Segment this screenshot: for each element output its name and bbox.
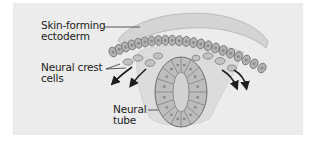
label-neural-crest-cells: Neural crest cells: [41, 62, 102, 84]
cell-nucleus: [130, 43, 133, 46]
cell-nucleus: [183, 118, 186, 121]
cell-nucleus: [253, 62, 256, 65]
cell-nucleus: [192, 41, 195, 44]
cell-nucleus: [185, 40, 188, 43]
cell-nucleus: [124, 45, 127, 48]
label-skin-forming-ectoderm: Skin-forming ectoderm: [41, 20, 105, 42]
cell-nucleus: [164, 39, 167, 42]
label-line: cells: [41, 73, 102, 84]
cell-nucleus: [229, 52, 232, 55]
cell-nucleus: [178, 39, 181, 42]
cell-nucleus: [196, 85, 199, 88]
cell-nucleus: [245, 58, 248, 61]
cell-nucleus: [207, 44, 210, 47]
cell-nucleus: [163, 96, 166, 99]
cell-nucleus: [222, 49, 225, 52]
cell-nucleus: [157, 39, 160, 42]
cell-nucleus: [194, 106, 197, 109]
cell-nucleus: [189, 68, 192, 71]
cell-nucleus: [165, 75, 168, 78]
cell-nucleus: [237, 55, 240, 58]
cell-nucleus: [163, 85, 166, 88]
label-line: ectoderm: [41, 31, 105, 42]
neural-tube: [155, 57, 207, 127]
cell-nucleus: [144, 41, 147, 44]
cell-nucleus: [261, 67, 264, 70]
label-line: tube: [113, 115, 146, 126]
cell-nucleus: [150, 40, 153, 43]
cell-nucleus: [189, 113, 192, 116]
cell-nucleus: [214, 46, 217, 49]
label-neural-tube: Neural tube: [113, 104, 146, 126]
cell-nucleus: [165, 106, 168, 109]
cell-nucleus: [112, 51, 115, 54]
cell-nucleus: [118, 48, 121, 51]
cell-nucleus: [176, 118, 179, 121]
cell-nucleus: [137, 42, 140, 45]
cell-nucleus: [176, 64, 179, 67]
cell-nucleus: [183, 64, 186, 67]
cell-nucleus: [170, 113, 173, 116]
cell-nucleus: [171, 39, 174, 42]
cell-nucleus: [194, 75, 197, 78]
cell-nucleus: [196, 96, 199, 99]
cell-nucleus: [199, 42, 202, 45]
cell-nucleus: [170, 68, 173, 71]
